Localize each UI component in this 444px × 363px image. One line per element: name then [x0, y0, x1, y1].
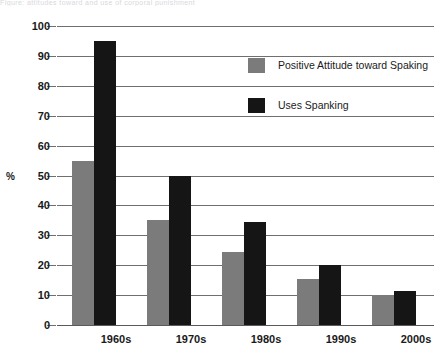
y-axis-tick-label: 90 [24, 51, 50, 62]
bar [94, 41, 116, 325]
bar [297, 279, 319, 325]
legend-label: Uses Spanking [278, 98, 349, 113]
gridline [57, 325, 434, 326]
y-axis-tick-label: 100 [24, 21, 50, 32]
y-axis-label: % [6, 172, 22, 182]
legend-label: Positive Attitude toward Spaking [278, 58, 428, 73]
y-axis-tick-label: 30 [24, 230, 50, 241]
y-axis-tick-label: 20 [24, 260, 50, 271]
y-axis-tick-label: 80 [24, 81, 50, 92]
bar [222, 252, 244, 325]
y-axis-tick-label: 0 [24, 320, 50, 331]
chart-legend: Positive Attitude toward SpakingUses Spa… [248, 57, 444, 137]
legend-swatch [248, 58, 265, 73]
y-axis-tick-label: 70 [24, 111, 50, 122]
legend-swatch [248, 98, 265, 113]
bar [394, 291, 416, 325]
bar [169, 176, 191, 326]
y-axis-tick-label: 40 [24, 200, 50, 211]
y-axis: 0102030405060708090100% [0, 26, 50, 325]
y-axis-tick-label: 10 [24, 290, 50, 301]
legend-item: Uses Spanking [248, 97, 444, 115]
bar [72, 161, 94, 325]
bar [244, 222, 266, 325]
legend-item: Positive Attitude toward Spaking [248, 57, 444, 75]
bar [147, 220, 169, 325]
gridline [57, 26, 434, 27]
bar-chart: 0102030405060708090100% 1960s1970s1980s1… [0, 0, 444, 363]
bar [319, 265, 341, 325]
x-axis: 1960s1970s1980s1990s2000s [57, 332, 434, 348]
y-axis-tick-label: 60 [24, 141, 50, 152]
bar [372, 295, 394, 325]
y-axis-tick-label: 50 [24, 171, 50, 182]
x-axis-tick-label: 2000s [372, 332, 444, 346]
